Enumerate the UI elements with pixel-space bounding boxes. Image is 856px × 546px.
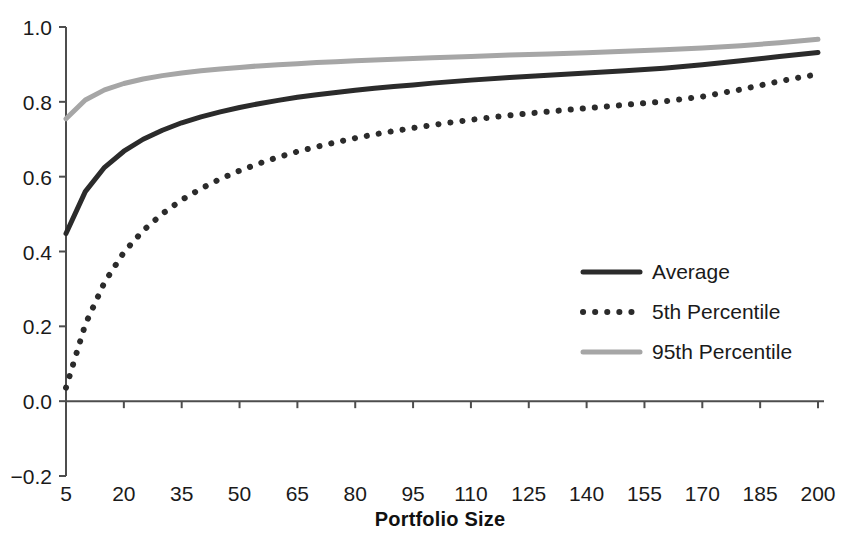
y-axis-tick-label: 1.0 <box>0 17 52 38</box>
x-axis-tick-label: 200 <box>800 483 835 504</box>
y-axis-tick-label: 0.8 <box>0 91 52 112</box>
y-axis-tick-label: 0.0 <box>0 391 52 412</box>
y-axis-tick-label: 0.6 <box>0 166 52 187</box>
series-line-0 <box>66 52 818 233</box>
x-axis-tick-label: 125 <box>511 483 546 504</box>
x-axis-tick-label: 65 <box>286 483 309 504</box>
x-axis-tick-label: 155 <box>627 483 662 504</box>
x-axis-tick-label: 80 <box>344 483 367 504</box>
chart-figure: −0.20.00.20.40.60.81.0520355065809511012… <box>0 0 856 546</box>
series-line-2 <box>66 39 818 118</box>
x-axis-tick-label: 50 <box>228 483 251 504</box>
legend-label-2: 95th Percentile <box>652 340 792 364</box>
legend-label-0: Average <box>652 260 730 284</box>
x-axis-tick-label: 20 <box>112 483 135 504</box>
y-axis-tick-label: 0.4 <box>0 241 52 262</box>
y-axis-tick-label: 0.2 <box>0 316 52 337</box>
x-axis-tick-label: 185 <box>743 483 778 504</box>
x-axis-tick-label: 170 <box>685 483 720 504</box>
x-axis-tick-label: 5 <box>60 483 72 504</box>
x-axis-title: Portfolio Size <box>375 508 506 531</box>
x-axis-tick-label: 95 <box>401 483 424 504</box>
x-axis-tick-label: 110 <box>454 483 487 504</box>
x-axis-tick-label: 140 <box>569 483 604 504</box>
y-axis-tick-label: −0.2 <box>0 466 52 487</box>
x-axis-tick-label: 35 <box>170 483 193 504</box>
legend-label-1: 5th Percentile <box>652 300 780 324</box>
